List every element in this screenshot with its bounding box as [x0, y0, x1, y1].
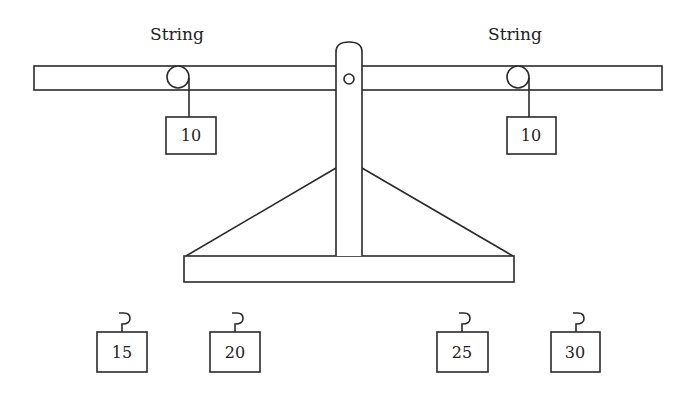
right-brace: [362, 168, 513, 256]
weight-value: 25: [452, 343, 472, 362]
weight-value: 20: [225, 343, 245, 362]
loose-weight-20: 20: [210, 313, 260, 372]
weight-value: 15: [112, 343, 132, 362]
hook-icon: [459, 313, 470, 332]
hook-icon: [573, 313, 584, 332]
weight-value: 30: [565, 343, 585, 362]
right-hanging-weight-value: 10: [521, 126, 541, 145]
left-string-label: String: [150, 24, 204, 44]
pivot-icon: [344, 74, 354, 84]
stand-base: [184, 256, 514, 282]
right-string-label: String: [488, 24, 542, 44]
loose-weight-30: 30: [551, 313, 600, 372]
hook-icon: [232, 313, 243, 332]
left-brace: [186, 168, 336, 256]
loose-weight-25: 25: [437, 313, 488, 372]
left-pulley-icon: [167, 66, 189, 88]
left-hanging-weight-value: 10: [181, 126, 201, 145]
balance-diagram: String 10 String 10 15 20 25 30: [0, 0, 690, 396]
hook-icon: [119, 313, 130, 332]
loose-weight-15: 15: [97, 313, 147, 372]
right-pulley-icon: [507, 66, 529, 88]
